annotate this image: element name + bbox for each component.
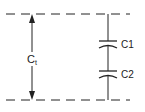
total-capacitance-label: Ct bbox=[27, 53, 37, 66]
arrow-down-icon bbox=[29, 91, 35, 100]
capacitor-c1-label: C1 bbox=[121, 39, 134, 50]
arrow-up-icon bbox=[29, 14, 35, 23]
capacitor-series-diagram: Ct C1 C2 bbox=[0, 0, 145, 112]
capacitor-branch bbox=[99, 14, 117, 100]
capacitor-c2-label: C2 bbox=[121, 69, 134, 80]
